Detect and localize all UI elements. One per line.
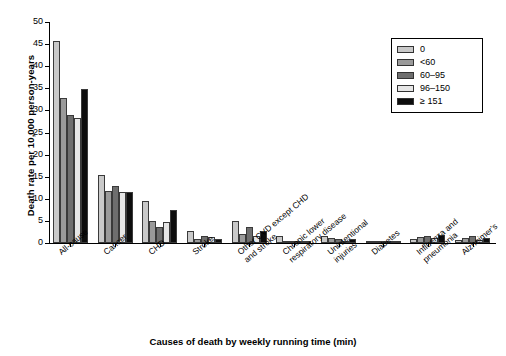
legend-item: 96–150 [397,82,477,95]
legend-item: <60 [397,56,477,69]
bar-chart: Death rate per 10,000 person-years 05101… [0,0,506,356]
legend-label: <60 [420,58,435,67]
x-axis-title: Causes of death by weekly running time (… [0,336,506,347]
x-axis-label: All-cause [57,228,90,258]
legend-swatch [397,72,414,79]
x-axis-label: Influenza and pneumonia [415,217,466,264]
x-axis-label: Alzheimer's [460,222,500,257]
x-axis-label: CHD [147,238,167,257]
x-axis-label: Cancer [102,232,129,257]
legend-swatch [397,98,414,105]
legend-item: ≥ 151 [397,95,477,108]
legend-swatch [397,59,414,66]
legend-label: 96–150 [420,84,450,93]
x-axis-label: Stroke [191,234,216,257]
legend-swatch [397,85,414,92]
legend-swatch [397,46,414,53]
legend-label: ≥ 151 [420,97,442,106]
legend-item: 0 [397,43,477,56]
legend-item: 60–95 [397,69,477,82]
legend-label: 60–95 [420,71,445,80]
legend: 0<6060–9596–150≥ 151 [391,38,483,113]
legend-label: 0 [420,45,425,54]
